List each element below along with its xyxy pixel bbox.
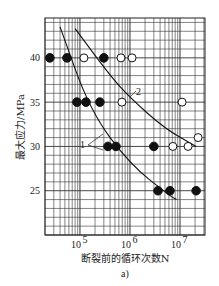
y-tick-label: 30 xyxy=(30,141,40,152)
filled-data-point xyxy=(63,54,72,63)
filled-data-point xyxy=(46,54,55,63)
x-axis-label: 断裂前的循环次数N xyxy=(81,252,170,264)
x-tick-exponent: 7 xyxy=(183,234,188,245)
open-data-point xyxy=(80,54,88,62)
open-data-point xyxy=(118,98,126,106)
filled-data-point xyxy=(104,142,113,151)
open-data-point xyxy=(194,134,202,142)
filled-data-point xyxy=(154,186,163,195)
y-tick-label: 40 xyxy=(30,52,40,63)
fit-curves xyxy=(60,27,196,200)
filled-data-point xyxy=(82,98,91,107)
x-axis-ticks: 105106107 xyxy=(71,234,188,250)
fatigue-sn-chart: 25303540 105106107 1 2 最大应力/MPa 断裂前的循环次数… xyxy=(0,0,219,286)
y-axis-ticks: 25303540 xyxy=(30,52,40,196)
open-data-point xyxy=(117,54,125,62)
filled-data-point xyxy=(100,54,109,63)
curve-label-1: 1 xyxy=(80,134,103,150)
filled-data-point xyxy=(150,142,159,151)
filled-data-point xyxy=(166,186,175,195)
filled-data-point xyxy=(73,98,82,107)
open-data-point xyxy=(128,54,136,62)
filled-data-point xyxy=(192,186,201,195)
open-data-point xyxy=(178,98,186,106)
x-tick-label: 10 xyxy=(71,239,81,250)
y-axis-label: 最大应力/MPa xyxy=(14,94,26,160)
open-data-point xyxy=(169,142,177,150)
x-tick-exponent: 6 xyxy=(132,234,137,245)
curve-label-2: 2 xyxy=(130,86,141,97)
filled-data-point xyxy=(112,142,121,151)
x-tick-label: 10 xyxy=(171,239,181,250)
y-tick-label: 35 xyxy=(30,97,40,108)
open-data-point xyxy=(184,142,192,150)
svg-text:1: 1 xyxy=(80,139,85,150)
x-tick-exponent: 5 xyxy=(82,234,87,245)
subfigure-label: a) xyxy=(121,268,129,280)
y-tick-label: 25 xyxy=(30,185,40,196)
x-tick-label: 10 xyxy=(121,239,131,250)
svg-text:2: 2 xyxy=(136,86,141,97)
filled-data-point xyxy=(96,98,105,107)
